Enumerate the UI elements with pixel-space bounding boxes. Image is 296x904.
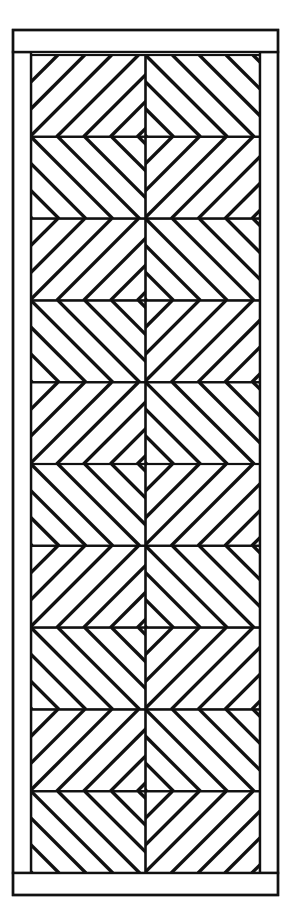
bottom-rail <box>13 873 278 895</box>
panel-drawing <box>0 0 296 904</box>
panel-figure <box>0 0 296 904</box>
top-rail <box>13 30 278 52</box>
